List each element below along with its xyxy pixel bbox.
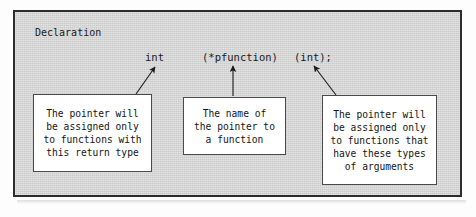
figure-canvas: Declaration int (*pfunction) (int); The … <box>0 0 476 217</box>
declaration-parameters: (int); <box>294 51 332 63</box>
arrow-to-parameters-icon <box>314 66 336 95</box>
callout-text-parameters: The pointer will be assigned only to fun… <box>330 108 428 173</box>
declaration-return-type: int <box>145 51 164 63</box>
callout-text-return-type: The pointer will be assigned only to fun… <box>43 107 141 159</box>
figure-caption: Declaration <box>35 27 101 39</box>
callout-box-parameters: The pointer will be assigned only to fun… <box>322 95 437 185</box>
callout-box-pointer-name: The name of the pointer to a function <box>183 97 286 155</box>
callout-box-return-type: The pointer will be assigned only to fun… <box>33 94 152 172</box>
arrow-to-return-type-icon <box>136 67 155 94</box>
declaration-pointer-name: (*pfunction) <box>202 51 278 63</box>
callout-text-pointer-name: The name of the pointer to a function <box>194 107 275 146</box>
